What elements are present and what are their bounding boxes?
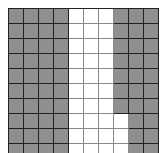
shaded-cell (54, 84, 69, 99)
shaded-cell (129, 24, 144, 39)
shaded-cell (24, 84, 39, 99)
unshaded-cell (69, 54, 84, 69)
shaded-cell (129, 54, 144, 69)
shaded-cell (9, 114, 24, 129)
hundred-grid (8, 8, 159, 153)
shaded-cell (129, 129, 144, 144)
shaded-cell (144, 54, 159, 69)
shaded-cell (9, 39, 24, 54)
shaded-cell (39, 99, 54, 114)
unshaded-cell (69, 24, 84, 39)
unshaded-cell (69, 144, 84, 153)
shaded-cell (39, 9, 54, 24)
unshaded-cell (99, 129, 114, 144)
unshaded-cell (69, 9, 84, 24)
shaded-cell (54, 99, 69, 114)
shaded-cell (144, 9, 159, 24)
shaded-cell (144, 39, 159, 54)
shaded-cell (24, 129, 39, 144)
shaded-cell (114, 39, 129, 54)
shaded-cell (9, 54, 24, 69)
shaded-cell (114, 84, 129, 99)
unshaded-cell (84, 9, 99, 24)
shaded-cell (54, 54, 69, 69)
unshaded-cell (114, 129, 129, 144)
unshaded-cell (69, 99, 84, 114)
shaded-cell (144, 69, 159, 84)
shaded-cell (9, 84, 24, 99)
unshaded-cell (99, 84, 114, 99)
shaded-cell (39, 54, 54, 69)
shaded-cell (9, 24, 24, 39)
shaded-cell (39, 129, 54, 144)
shaded-cell (114, 9, 129, 24)
unshaded-cell (99, 144, 114, 153)
shaded-cell (144, 114, 159, 129)
shaded-cell (9, 99, 24, 114)
shaded-cell (54, 144, 69, 153)
shaded-cell (24, 69, 39, 84)
shaded-cell (39, 114, 54, 129)
unshaded-cell (84, 69, 99, 84)
shaded-cell (24, 144, 39, 153)
shaded-cell (114, 69, 129, 84)
unshaded-cell (69, 114, 84, 129)
shaded-cell (129, 84, 144, 99)
unshaded-cell (114, 114, 129, 129)
unshaded-cell (84, 84, 99, 99)
shaded-cell (129, 39, 144, 54)
shaded-cell (24, 54, 39, 69)
unshaded-cell (84, 99, 99, 114)
unshaded-cell (99, 9, 114, 24)
unshaded-cell (99, 24, 114, 39)
unshaded-cell (99, 114, 114, 129)
shaded-cell (144, 84, 159, 99)
shaded-cell (129, 9, 144, 24)
shaded-cell (129, 114, 144, 129)
shaded-cell (54, 24, 69, 39)
shaded-cell (24, 114, 39, 129)
shaded-cell (144, 99, 159, 114)
shaded-cell (9, 69, 24, 84)
shaded-cell (144, 24, 159, 39)
shaded-cell (24, 24, 39, 39)
shaded-cell (54, 129, 69, 144)
shaded-cell (54, 114, 69, 129)
shaded-cell (144, 144, 159, 153)
unshaded-cell (69, 69, 84, 84)
shaded-cell (144, 129, 159, 144)
shaded-cell (114, 99, 129, 114)
unshaded-cell (99, 39, 114, 54)
shaded-cell (114, 24, 129, 39)
shaded-cell (129, 144, 144, 153)
shaded-cell (54, 69, 69, 84)
unshaded-cell (84, 144, 99, 153)
shaded-cell (39, 84, 54, 99)
unshaded-cell (99, 69, 114, 84)
shaded-cell (9, 144, 24, 153)
shaded-cell (24, 39, 39, 54)
unshaded-cell (84, 129, 99, 144)
shaded-cell (9, 129, 24, 144)
unshaded-cell (99, 54, 114, 69)
unshaded-cell (84, 54, 99, 69)
unshaded-cell (84, 24, 99, 39)
unshaded-cell (84, 114, 99, 129)
shaded-cell (24, 99, 39, 114)
unshaded-cell (69, 129, 84, 144)
shaded-cell (54, 39, 69, 54)
unshaded-cell (84, 39, 99, 54)
shaded-cell (39, 39, 54, 54)
shaded-cell (39, 144, 54, 153)
shaded-cell (129, 69, 144, 84)
shaded-cell (24, 9, 39, 24)
unshaded-cell (69, 39, 84, 54)
shaded-cell (129, 99, 144, 114)
shaded-cell (39, 24, 54, 39)
unshaded-cell (114, 144, 129, 153)
shaded-cell (39, 69, 54, 84)
unshaded-cell (99, 99, 114, 114)
shaded-cell (9, 9, 24, 24)
shaded-cell (114, 54, 129, 69)
unshaded-cell (69, 84, 84, 99)
